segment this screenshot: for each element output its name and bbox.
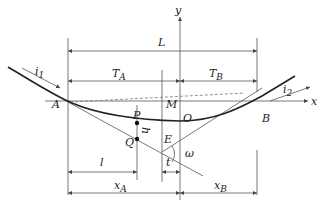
- label-i2: i2: [283, 83, 293, 98]
- label-L: L: [157, 36, 165, 49]
- x-axis-label: x: [311, 95, 318, 108]
- label-t: t: [166, 156, 171, 169]
- label-O: O: [183, 112, 192, 125]
- y-axis-label: y: [174, 4, 182, 17]
- point-q: [135, 137, 139, 141]
- label-TB: TB: [209, 67, 223, 82]
- label-E: E: [163, 133, 172, 146]
- label-i1: i1: [35, 65, 44, 80]
- label-P: P: [132, 109, 141, 122]
- label-B: B: [261, 112, 270, 125]
- label-M: M: [165, 98, 178, 111]
- label-omega: ω: [185, 147, 194, 160]
- label-A: A: [51, 98, 60, 111]
- label-TA: TA: [112, 67, 126, 82]
- label-l: l: [100, 156, 104, 169]
- label-xA: xA: [114, 179, 127, 194]
- label-h: h: [139, 127, 152, 134]
- label-Q: Q: [125, 136, 134, 149]
- label-xB: xB: [214, 179, 227, 194]
- vertical-curve-diagram: y x L TA TB i1 i2 A B O P Q M E h ω t l …: [0, 0, 323, 211]
